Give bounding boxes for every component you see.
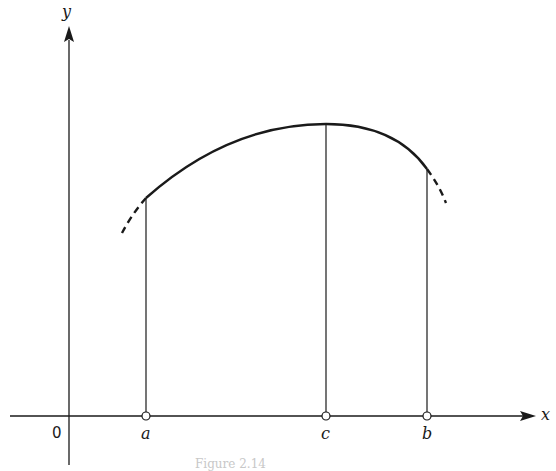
diagram-graphic — [0, 0, 556, 471]
point-c-marker — [322, 412, 330, 420]
point-b-label: b — [422, 424, 432, 443]
x-axis-label: x — [541, 405, 550, 424]
point-a-marker — [142, 412, 150, 420]
figure-caption: Figure 2.14 — [195, 457, 266, 471]
function-curve — [146, 124, 427, 198]
figure-canvas: y x 0 a c b Figure 2.14 — [0, 0, 556, 471]
y-axis-label: y — [62, 2, 71, 21]
point-a-label: a — [141, 424, 151, 443]
point-c-label: c — [321, 424, 330, 443]
origin-label: 0 — [52, 424, 62, 442]
y-axis-arrow-icon — [64, 26, 74, 42]
curve-left-extension — [122, 198, 146, 233]
curve-right-extension — [427, 169, 446, 203]
point-b-marker — [423, 412, 431, 420]
